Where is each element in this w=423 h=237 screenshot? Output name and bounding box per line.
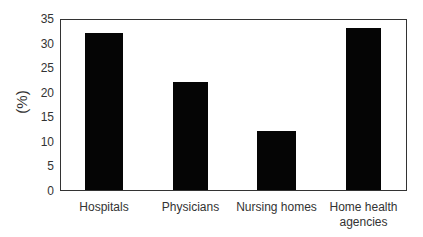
y-tick-label: 30: [41, 38, 54, 50]
y-axis-label: (%): [13, 90, 30, 113]
x-tick-label: Nursing homes: [227, 200, 327, 215]
x-tick-label-line: agencies: [314, 215, 414, 230]
x-tick-label-line: Nursing homes: [227, 200, 327, 215]
y-tick-label: 10: [41, 136, 54, 148]
bar: [173, 82, 208, 190]
y-tick-label: 5: [47, 160, 54, 172]
x-tick-label-line: Physicians: [141, 200, 241, 215]
x-tick-label-line: Home health: [314, 200, 414, 215]
x-tick-label: Home healthagencies: [314, 200, 414, 230]
x-tick-label: Physicians: [141, 200, 241, 215]
bar: [85, 33, 123, 190]
plot-area: [60, 19, 407, 191]
x-tick-label-line: Hospitals: [54, 200, 154, 215]
bar: [257, 131, 296, 190]
y-tick-label: 15: [41, 111, 54, 123]
x-tick-label: Hospitals: [54, 200, 154, 215]
y-tick-label: 0: [47, 185, 54, 197]
bar: [346, 28, 381, 190]
bar-chart: (%) 05101520253035 HospitalsPhysiciansNu…: [0, 0, 423, 237]
y-tick-label: 35: [41, 13, 54, 25]
y-tick-label: 20: [41, 87, 54, 99]
y-tick-label: 25: [41, 62, 54, 74]
